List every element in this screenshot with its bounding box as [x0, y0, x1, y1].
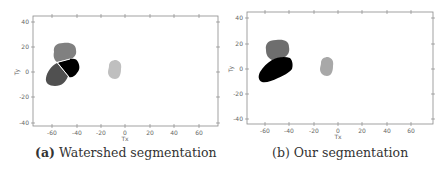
panel-b: 40 20 0 -20 -40 -60 -40 -20 0 20 40 60 T…: [0, 0, 447, 175]
y-tick-label: 40: [235, 14, 243, 21]
y-tick-label: -20: [233, 90, 243, 97]
cluster-lightgray: [320, 57, 333, 76]
x-tick-label: -20: [309, 127, 319, 134]
x-axis-label: Tx: [333, 133, 342, 140]
y-tick-label: -40: [233, 115, 243, 122]
y-axis-label: Ty: [227, 65, 235, 73]
caption-text: Our segmentation: [294, 145, 408, 160]
y-tick-label: 0: [239, 65, 243, 72]
x-tick-label: 40: [383, 127, 391, 134]
x-tick-label: -60: [260, 127, 270, 134]
caption-b: (b) Our segmentation: [272, 145, 408, 160]
caption-tag: (b): [272, 145, 290, 160]
x-tick-label: 60: [407, 127, 415, 134]
y-tick-label: 20: [235, 40, 243, 47]
x-tick-label: 20: [358, 127, 366, 134]
x-tick-label: -40: [284, 127, 294, 134]
